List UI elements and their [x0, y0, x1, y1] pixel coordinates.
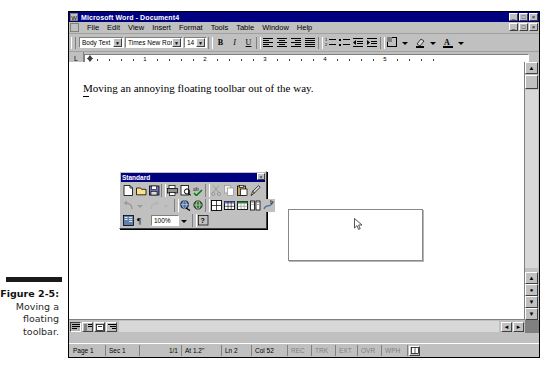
doc-minimize-button[interactable]: _: [509, 23, 518, 31]
status-trk[interactable]: TRK: [312, 345, 336, 356]
show-formatting-button[interactable]: ¶: [135, 214, 148, 227]
status-ovr[interactable]: OVR: [358, 345, 382, 356]
bulleted-list-button[interactable]: [338, 36, 351, 49]
font-size-combo[interactable]: 14 ▼: [184, 37, 207, 48]
menu-item-format[interactable]: Format: [175, 23, 207, 32]
align-left-button[interactable]: [262, 36, 275, 49]
menu-item-help[interactable]: Help: [293, 23, 316, 32]
doc-restore-button[interactable]: □: [519, 23, 528, 31]
status-section: Sec 1: [106, 345, 140, 356]
toolbar-grip[interactable]: [71, 37, 76, 49]
normal-view-button[interactable]: [70, 322, 81, 332]
document-map-button[interactable]: [122, 214, 135, 227]
status-rec[interactable]: REC: [288, 345, 312, 356]
highlight-dropdown[interactable]: [428, 36, 441, 49]
zoom-combo[interactable]: 100%: [151, 215, 179, 226]
cut-button[interactable]: [210, 184, 223, 197]
font-combo[interactable]: Times New Roman ▼: [125, 37, 183, 48]
save-button[interactable]: [148, 184, 161, 197]
menu-item-file[interactable]: File: [83, 23, 103, 32]
align-center-button[interactable]: [276, 36, 289, 49]
chevron-down-icon[interactable]: ▼: [113, 38, 122, 47]
highlight-button[interactable]: [414, 36, 427, 49]
scroll-right-button[interactable]: ►: [513, 322, 524, 332]
undo-dropdown[interactable]: [135, 199, 148, 212]
menu-item-tools[interactable]: Tools: [207, 23, 233, 32]
horizontal-scrollbar[interactable]: ◄ ►: [69, 319, 525, 333]
standard-toolbar-row-2: [120, 198, 266, 213]
select-browse-object-button[interactable]: ●: [525, 284, 538, 296]
standard-floating-toolbar[interactable]: Standard × ab: [119, 171, 267, 229]
scroll-left-button[interactable]: ◄: [501, 322, 512, 332]
menu-item-edit[interactable]: Edit: [103, 23, 124, 32]
increase-indent-icon: [366, 36, 379, 49]
floating-toolbar-titlebar[interactable]: Standard ×: [121, 173, 265, 182]
print-preview-button[interactable]: [179, 184, 192, 197]
vertical-scroll-thumb[interactable]: [525, 75, 538, 89]
web-toolbar-button[interactable]: [192, 199, 205, 212]
insert-excel-sheet-button[interactable]: [236, 199, 249, 212]
insert-table-button[interactable]: [223, 199, 236, 212]
print-preview-icon: [179, 184, 192, 197]
spell-check-book-icon[interactable]: [409, 346, 420, 356]
font-color-dropdown[interactable]: [456, 36, 469, 49]
columns-button[interactable]: [249, 199, 262, 212]
doc-close-button[interactable]: ×: [529, 23, 538, 31]
tables-and-borders-button[interactable]: [210, 199, 223, 212]
italic-button[interactable]: I: [228, 36, 241, 49]
font-color-button[interactable]: A: [442, 36, 455, 49]
scroll-up-button[interactable]: ▲: [525, 62, 538, 74]
align-right-button[interactable]: [290, 36, 303, 49]
bold-button[interactable]: B: [214, 36, 227, 49]
status-language[interactable]: WPH: [382, 345, 408, 356]
scroll-down-button[interactable]: ▼: [525, 308, 538, 320]
help-question-icon: ?: [197, 214, 210, 227]
svg-text:ab: ab: [193, 186, 199, 192]
close-icon[interactable]: ×: [257, 173, 265, 180]
minimize-button[interactable]: _: [509, 13, 518, 21]
drawing-button[interactable]: [262, 199, 275, 212]
decrease-indent-button[interactable]: [352, 36, 365, 49]
increase-indent-button[interactable]: [366, 36, 379, 49]
print-button[interactable]: [166, 184, 179, 197]
help-button[interactable]: ?: [197, 214, 210, 227]
menu-item-window[interactable]: Window: [258, 23, 293, 32]
chevron-down-icon[interactable]: ▼: [172, 38, 181, 47]
close-button[interactable]: ×: [529, 13, 538, 21]
redo-button[interactable]: [148, 199, 161, 212]
next-page-button[interactable]: ▼: [525, 296, 538, 308]
copy-button[interactable]: [223, 184, 236, 197]
undo-button[interactable]: [122, 199, 135, 212]
zoom-dropdown[interactable]: [179, 214, 192, 227]
document-control-icon[interactable]: [70, 23, 79, 32]
application-titlebar[interactable]: W Microsoft Word - Document4 _ □ ×: [69, 12, 539, 22]
style-combo[interactable]: Body Text ▼: [79, 37, 124, 48]
maximize-button[interactable]: □: [519, 13, 528, 21]
status-ext[interactable]: EXT: [336, 345, 358, 356]
previous-page-button[interactable]: ▲: [525, 272, 538, 284]
printer-icon: [166, 184, 179, 197]
underline-button[interactable]: U: [242, 36, 255, 49]
online-layout-view-button[interactable]: [82, 322, 93, 332]
paste-button[interactable]: [236, 184, 249, 197]
menu-item-view[interactable]: View: [124, 23, 148, 32]
format-painter-button[interactable]: [249, 184, 262, 197]
chevron-down-icon[interactable]: ▼: [196, 38, 205, 47]
outline-view-icon: [107, 323, 116, 331]
new-document-button[interactable]: [122, 184, 135, 197]
vertical-scrollbar[interactable]: ▲ ▲ ● ▼ ▼: [524, 62, 539, 320]
menu-item-insert[interactable]: Insert: [148, 23, 175, 32]
horizontal-scroll-track[interactable]: [119, 321, 499, 332]
justify-button[interactable]: [304, 36, 317, 49]
menu-item-table[interactable]: Table: [232, 23, 258, 32]
spelling-button[interactable]: ab: [192, 184, 205, 197]
insert-hyperlink-button[interactable]: [179, 199, 192, 212]
borders-button[interactable]: [386, 36, 399, 49]
outline-view-button[interactable]: [106, 322, 117, 332]
numbered-list-button[interactable]: 12: [324, 36, 337, 49]
borders-dropdown[interactable]: [400, 36, 413, 49]
open-button[interactable]: [135, 184, 148, 197]
vertical-scroll-track[interactable]: [525, 90, 538, 268]
redo-dropdown[interactable]: [161, 199, 174, 212]
page-layout-view-button[interactable]: [94, 322, 105, 332]
